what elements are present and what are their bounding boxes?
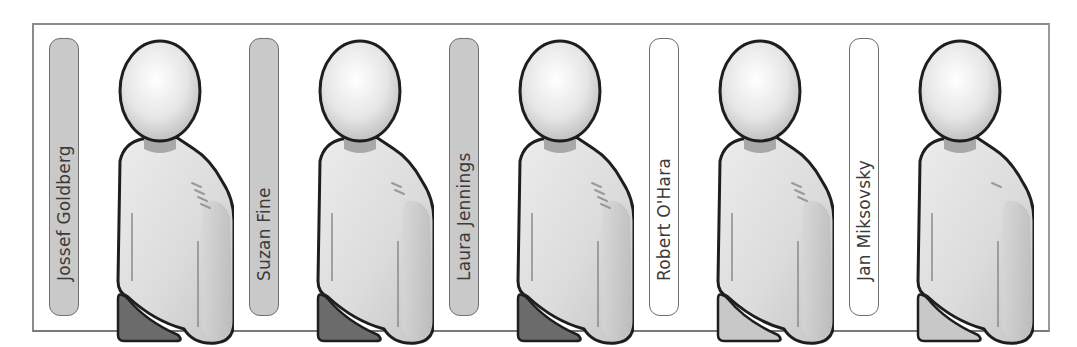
name-label: Robert O'Hara — [649, 38, 679, 316]
person-card-4[interactable]: Jan Miksovsky — [832, 23, 1032, 347]
person-avatar-icon — [484, 31, 634, 347]
person-card-2[interactable]: Laura Jennings — [432, 23, 632, 347]
person-name: Laura Jennings — [454, 153, 474, 281]
person-name: Robert O'Hara — [654, 158, 674, 281]
person-avatar-icon — [284, 31, 434, 347]
person-name: Suzan Fine — [254, 187, 274, 281]
person-name: Jan Miksovsky — [854, 160, 874, 281]
person-avatar-icon — [884, 31, 1034, 347]
person-avatar-icon — [84, 31, 234, 347]
name-label: Suzan Fine — [249, 38, 279, 316]
person-name: Jossef Goldberg — [54, 145, 74, 281]
person-card-1[interactable]: Suzan Fine — [232, 23, 432, 347]
name-label: Laura Jennings — [449, 38, 479, 316]
name-label: Jossef Goldberg — [49, 38, 79, 316]
person-card-3[interactable]: Robert O'Hara — [632, 23, 832, 347]
name-label: Jan Miksovsky — [849, 38, 879, 316]
person-card-0[interactable]: Jossef Goldberg — [32, 23, 232, 347]
person-avatar-icon — [684, 31, 834, 347]
